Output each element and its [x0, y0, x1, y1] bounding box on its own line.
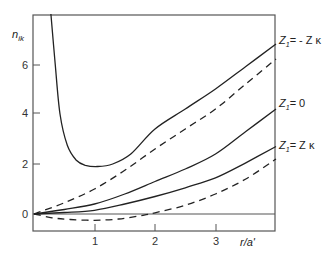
curve-series-2 — [34, 109, 276, 214]
ytick-0: 0 — [22, 208, 28, 220]
y-axis-label: nik — [12, 28, 25, 43]
ytick-6: 6 — [22, 59, 28, 71]
x-axis-ticks — [95, 224, 216, 231]
y-axis-tick-labels: 0 2 4 6 — [22, 59, 28, 220]
x-axis-label: r/a' — [240, 236, 256, 248]
ytick-2: 2 — [22, 158, 28, 170]
label-z1-zero: Z1= 0 — [278, 97, 305, 111]
curve-series-4 — [34, 159, 276, 220]
xtick-3: 3 — [213, 235, 219, 247]
plot-frame — [33, 15, 275, 231]
y-axis-ticks — [33, 65, 40, 214]
label-z1-neg-zk: Z1= - Z κ — [278, 34, 322, 48]
label-z1-pos-zk: Z1= Z κ — [278, 139, 315, 153]
ytick-4: 4 — [22, 107, 28, 119]
xtick-2: 2 — [152, 235, 158, 247]
x-axis-tick-labels: 1 2 3 — [92, 235, 219, 247]
curve-series-3 — [34, 147, 276, 215]
chart: 0 2 4 6 1 2 3 nik r/a' Z1= - Z κ Z1= 0 Z… — [0, 0, 329, 263]
xtick-1: 1 — [92, 235, 98, 247]
curves — [34, 14, 276, 220]
